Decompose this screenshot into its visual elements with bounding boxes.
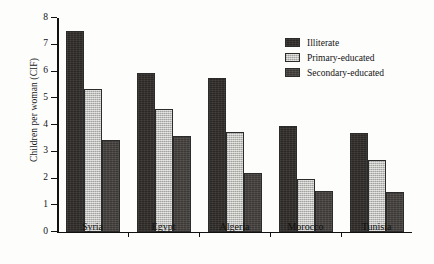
legend-label: Primary-educated xyxy=(307,53,375,63)
y-axis-tick: 4 xyxy=(51,124,57,125)
legend-item: Secondary-educated xyxy=(285,66,384,79)
chart-figure: Children per woman (CIF) 012345678 Syria… xyxy=(0,0,434,264)
legend-label: Secondary-educated xyxy=(307,68,384,78)
y-axis-title: Children per woman (CIF) xyxy=(29,15,39,205)
y-axis-tick-label: 4 xyxy=(43,117,48,131)
x-axis-tick xyxy=(199,232,200,237)
x-axis-tick xyxy=(128,232,129,237)
x-axis-category-label: Egypt xyxy=(152,221,176,232)
x-axis-category-label: Tunisia xyxy=(362,221,392,232)
bar xyxy=(102,140,120,232)
bar xyxy=(226,132,244,232)
legend-swatch xyxy=(285,38,300,47)
y-axis-tick-label: 0 xyxy=(43,224,48,238)
bar xyxy=(279,126,297,232)
y-axis-tick-label: 3 xyxy=(43,143,48,157)
x-axis-category-label: Syria xyxy=(82,221,103,232)
y-axis-tick-label: 7 xyxy=(43,36,48,50)
y-axis-tick: 1 xyxy=(51,204,57,205)
y-axis-tick-label: 5 xyxy=(43,90,48,104)
x-axis-tick xyxy=(341,232,342,237)
y-axis-tick: 2 xyxy=(51,178,57,179)
y-axis-tick: 0 xyxy=(51,231,57,232)
y-axis-tick: 3 xyxy=(51,151,57,152)
bar xyxy=(66,31,84,232)
y-axis-tick: 5 xyxy=(51,97,57,98)
legend-swatch xyxy=(285,53,300,62)
bar xyxy=(350,133,368,232)
legend-item: Illiterate xyxy=(285,36,384,49)
bar xyxy=(155,109,173,232)
bar xyxy=(208,78,226,232)
bar xyxy=(173,136,191,232)
y-axis-tick-label: 2 xyxy=(43,170,48,184)
y-axis-line xyxy=(57,18,59,232)
bar xyxy=(137,73,155,232)
chart-legend: IlliteratePrimary-educatedSecondary-educ… xyxy=(285,36,384,81)
legend-swatch xyxy=(285,68,300,77)
x-axis-category-label: Algeria xyxy=(220,221,250,232)
y-axis-tick: 7 xyxy=(51,44,57,45)
y-axis-tick-label: 6 xyxy=(43,63,48,77)
legend-label: Illiterate xyxy=(307,38,339,48)
y-axis-tick: 6 xyxy=(51,71,57,72)
y-axis-tick: 8 xyxy=(51,17,57,18)
y-axis-tick-label: 1 xyxy=(43,197,48,211)
legend-item: Primary-educated xyxy=(285,51,384,64)
x-axis-tick xyxy=(270,232,271,237)
bar xyxy=(84,89,102,232)
y-axis-tick-label: 8 xyxy=(43,10,48,24)
x-axis-category-label: Morocco xyxy=(287,221,323,232)
